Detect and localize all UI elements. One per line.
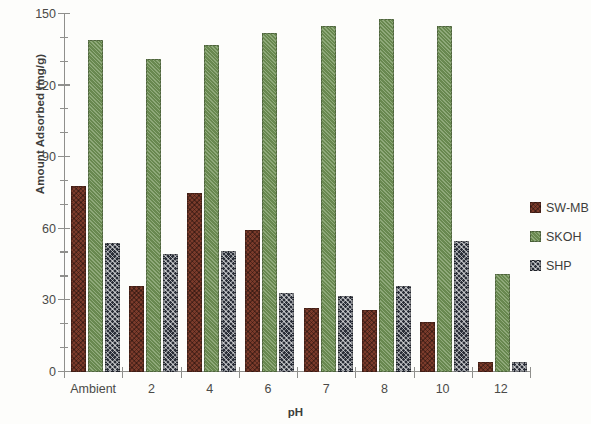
legend-label: SHP [546, 259, 572, 273]
x-axis-tick [297, 367, 298, 378]
y-axis-tick-label: 30 [42, 293, 56, 307]
bar-group [420, 14, 469, 372]
x-axis-title: pH [0, 406, 591, 418]
x-axis-label-7: 7 [323, 382, 330, 396]
x-axis-label-ambient: Ambient [70, 382, 116, 396]
y-axis-tick-minor [60, 347, 68, 348]
bar-shp-10 [454, 241, 469, 372]
legend-swatch-icon [530, 260, 541, 271]
bar-group [71, 14, 120, 372]
x-axis-tick [122, 367, 123, 378]
x-axis-tick [239, 367, 240, 378]
bar-sw-mb-12 [478, 362, 493, 372]
y-axis-tick-label: 60 [42, 222, 56, 236]
bar-shp-ambient [105, 243, 120, 372]
bar-group [362, 14, 411, 372]
bar-group [478, 14, 527, 372]
y-axis-tick-major [58, 299, 70, 300]
y-axis-tick-major [58, 84, 70, 85]
bar-sw-mb-7 [304, 308, 319, 372]
y-axis-tick-minor [60, 37, 68, 38]
y-axis-tick-minor [60, 180, 68, 181]
legend-item-shp[interactable]: SHP [530, 251, 589, 280]
bar-shp-2 [163, 254, 178, 372]
y-axis-tick-minor [60, 275, 68, 276]
y-axis-title: Amount Adsorbed (mg/g) [34, 24, 46, 224]
y-axis-tick-minor [60, 323, 68, 324]
bar-shp-7 [338, 296, 353, 372]
bar-skoh-8 [379, 19, 394, 372]
bar-group [129, 14, 178, 372]
bar-sw-mb-6 [245, 230, 260, 372]
x-axis-label-6: 6 [264, 382, 271, 396]
bar-group [245, 14, 294, 372]
y-axis-tick-label: 150 [35, 7, 56, 21]
legend-swatch-icon [530, 231, 541, 242]
y-axis-tick-major [58, 228, 70, 229]
bar-shp-12 [512, 362, 527, 372]
x-axis-label-10: 10 [436, 382, 450, 396]
x-axis-label-12: 12 [494, 382, 508, 396]
plot-area: 0306090120150 [64, 14, 530, 372]
y-axis-tick-minor [60, 132, 68, 133]
y-axis-tick-minor [60, 204, 68, 205]
legend-item-skoh[interactable]: SKOH [530, 222, 589, 251]
bar-sw-mb-ambient [71, 186, 86, 372]
x-axis-label-4: 4 [206, 382, 213, 396]
legend-label: SKOH [546, 230, 581, 244]
y-axis-tick-major [58, 13, 70, 14]
y-axis-tick-major [58, 156, 70, 157]
bar-chart: Amount Adsorbed (mg/g) 0306090120150 pH … [0, 0, 591, 424]
bar-group [187, 14, 236, 372]
x-axis-tick [64, 367, 65, 378]
bar-sw-mb-2 [129, 286, 144, 372]
bar-sw-mb-8 [362, 310, 377, 372]
x-axis-tick [530, 367, 531, 378]
x-axis-tick [472, 367, 473, 378]
y-axis-tick-label: 90 [42, 150, 56, 164]
x-axis-label-2: 2 [148, 382, 155, 396]
y-axis-tick-minor [60, 61, 68, 62]
legend-label: SW-MB [546, 201, 589, 215]
x-axis-label-8: 8 [381, 382, 388, 396]
bar-skoh-7 [321, 26, 336, 372]
y-axis-line [64, 14, 65, 372]
bar-skoh-12 [495, 274, 510, 372]
bar-group [304, 14, 353, 372]
bar-shp-8 [396, 286, 411, 372]
bar-shp-6 [279, 293, 294, 372]
x-axis-tick [355, 367, 356, 378]
bar-skoh-4 [204, 45, 219, 372]
legend: SW-MBSKOHSHP [530, 193, 589, 280]
bar-skoh-10 [437, 26, 452, 372]
y-axis-tick-label: 120 [35, 79, 56, 93]
bar-sw-mb-4 [187, 193, 202, 372]
bar-sw-mb-10 [420, 322, 435, 372]
y-axis-tick-minor [60, 108, 68, 109]
y-axis-tick-minor [60, 251, 68, 252]
x-axis-tick [181, 367, 182, 378]
bar-skoh-6 [262, 33, 277, 372]
legend-item-sw-mb[interactable]: SW-MB [530, 193, 589, 222]
legend-swatch-icon [530, 202, 541, 213]
y-axis-tick-label: 0 [49, 365, 56, 379]
bar-shp-4 [221, 251, 236, 372]
bar-skoh-ambient [88, 40, 103, 372]
x-axis-tick [414, 367, 415, 378]
bar-skoh-2 [146, 59, 161, 372]
